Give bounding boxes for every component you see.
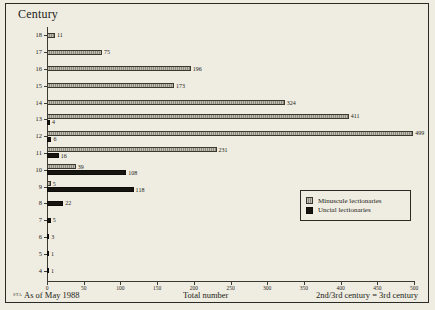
x-axis-tick-label: 150	[153, 285, 161, 291]
y-axis-tick-label: 11	[36, 150, 42, 157]
footer-note: 2nd/3rd century = 3rd century	[316, 290, 418, 300]
bar-value-label: 499	[415, 130, 424, 136]
bar-value-label: 16	[61, 153, 67, 159]
bar-uncial: 3	[47, 234, 49, 239]
y-axis-tick-label: 5	[39, 251, 42, 258]
plot-area: 1811177516196151731432413411412499611231…	[47, 27, 414, 279]
x-axis-tick-label: 450	[373, 285, 381, 291]
y-axis-tick-label: 17	[36, 49, 43, 56]
bar-value-label: 75	[104, 49, 110, 55]
chart-row: 1811	[47, 27, 414, 44]
bar-uncial: 1	[47, 251, 49, 256]
bar-minuscule: 5	[47, 181, 51, 186]
page-title: Century	[18, 7, 58, 22]
bar-minuscule: 39	[47, 164, 76, 169]
legend-item-uncial: Uncial lectionaries	[306, 206, 405, 214]
bar-uncial: 118	[47, 187, 134, 192]
chart-footer: STAAs of May 1988 Total number 2nd/3rd c…	[0, 290, 424, 302]
footer-marker: STA	[13, 292, 22, 297]
x-axis-tick-label: 500	[410, 285, 418, 291]
bar-value-label: 1	[51, 268, 54, 274]
chart-row: 124996	[47, 128, 414, 145]
chart-row: 1775	[47, 44, 414, 61]
x-axis-tick-label: 250	[226, 285, 234, 291]
bar-uncial: 6	[47, 137, 51, 142]
bar-uncial: 1	[47, 268, 49, 273]
bar-value-label: 11	[57, 32, 63, 38]
chart-row: 63	[47, 229, 414, 246]
legend-label-minuscule: Minuscule lectionaries	[318, 197, 382, 205]
y-axis-tick-label: 13	[36, 116, 43, 123]
bar-minuscule: 75	[47, 50, 102, 55]
x-axis-tick-label: 200	[190, 285, 198, 291]
chart-row: 15173	[47, 77, 414, 94]
y-axis-tick-label: 10	[36, 167, 43, 174]
bar-uncial: 5	[47, 218, 51, 223]
y-axis-tick-label: 8	[39, 200, 42, 207]
bar-value-label: 173	[176, 83, 185, 89]
bar-value-label: 3	[51, 234, 54, 240]
bar-minuscule: 411	[47, 114, 349, 119]
y-axis-tick-label: 16	[36, 66, 43, 73]
y-axis-tick-label: 12	[36, 133, 43, 140]
chart-screenshot: Century 18111775161961517314324134114124…	[0, 0, 435, 310]
bar-minuscule: 324	[47, 100, 285, 105]
y-axis-tick-label: 14	[36, 99, 43, 106]
bar-value-label: 118	[136, 187, 145, 193]
chart-legend: Minuscule lectionaries Uncial lectionari…	[300, 190, 411, 221]
footer-left: STAAs of May 1988	[13, 290, 80, 300]
legend-swatch-uncial-icon	[306, 207, 313, 214]
legend-label-uncial: Uncial lectionaries	[318, 206, 371, 214]
footer-left-text: As of May 1988	[24, 290, 79, 300]
x-axis-tick-label: 400	[336, 285, 344, 291]
x-axis-tick-label: 300	[263, 285, 271, 291]
bar-minuscule: 173	[47, 83, 174, 88]
bar-minuscule: 11	[47, 33, 55, 38]
bar-uncial: 16	[47, 153, 59, 158]
x-axis-tick-label: 50	[81, 285, 87, 291]
bar-value-label: 39	[78, 164, 84, 170]
y-axis-tick-label: 6	[39, 234, 42, 241]
chart-row: 1039108	[47, 161, 414, 178]
y-axis-tick-label: 7	[39, 217, 42, 224]
bar-uncial: 4	[47, 120, 50, 125]
y-axis-tick-label: 15	[36, 83, 43, 90]
y-axis-tick-label: 9	[39, 183, 42, 190]
bar-minuscule: 196	[47, 66, 191, 71]
bar-value-label: 22	[65, 200, 71, 206]
bar-uncial: 22	[47, 201, 63, 206]
y-axis-tick-label: 18	[36, 32, 43, 39]
chart-row: 14324	[47, 94, 414, 111]
legend-swatch-minuscule-icon	[306, 197, 313, 204]
bar-value-label: 5	[53, 181, 56, 187]
chart-row: 134114	[47, 111, 414, 128]
bar-value-label: 324	[287, 100, 296, 106]
bar-value-label: 231	[219, 147, 228, 153]
y-axis-tick-label: 4	[39, 267, 42, 274]
bar-value-label: 1	[51, 251, 54, 257]
chart-row: 16196	[47, 61, 414, 78]
bar-minuscule: 231	[47, 147, 217, 152]
legend-item-minuscule: Minuscule lectionaries	[306, 197, 405, 205]
bar-value-label: 5	[53, 217, 56, 223]
x-axis-tick-label: 0	[46, 285, 49, 291]
bar-value-label: 411	[351, 113, 360, 119]
bar-uncial: 108	[47, 170, 126, 175]
x-axis-title: Total number	[183, 290, 228, 300]
bar-value-label: 4	[52, 119, 55, 125]
chart-row: 41	[47, 262, 414, 279]
x-axis-tick-label: 100	[116, 285, 124, 291]
chart-row: 51	[47, 245, 414, 262]
bar-value-label: 196	[193, 66, 202, 72]
x-axis-tick-label: 350	[300, 285, 308, 291]
bar-value-label: 6	[53, 136, 56, 142]
bar-minuscule: 499	[47, 131, 413, 136]
bar-value-label: 108	[128, 170, 137, 176]
chart-row: 1123116	[47, 145, 414, 162]
